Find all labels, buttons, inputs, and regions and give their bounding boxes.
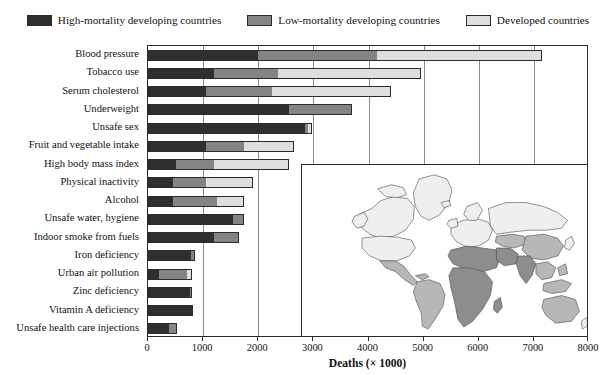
stacked-bar[interactable]: [148, 269, 192, 280]
bar-segment-developed[interactable]: [272, 86, 391, 97]
bar-segment-high[interactable]: [148, 250, 191, 261]
bar-segment-low[interactable]: [258, 50, 377, 61]
bar-segment-high[interactable]: [148, 323, 169, 334]
region-russia: [488, 203, 567, 235]
bar-segment-high[interactable]: [148, 104, 289, 115]
bar-row[interactable]: [148, 46, 588, 64]
bar-segment-low[interactable]: [206, 86, 272, 97]
bar-segment-developed[interactable]: [308, 123, 311, 134]
legend-swatch-low-mortality-icon: [247, 15, 272, 26]
bar-segment-low[interactable]: [173, 177, 206, 188]
bar-row[interactable]: [148, 137, 588, 155]
region-southeast-asia: [536, 262, 556, 280]
x-tick-0: [147, 337, 148, 341]
stacked-bar-chart: Blood pressureTobacco useSerum cholester…: [0, 40, 616, 375]
region-philippines: [558, 264, 568, 276]
stacked-bar[interactable]: [148, 323, 177, 334]
bar-segment-high[interactable]: [148, 305, 192, 316]
category-label-11: Iron deficiency: [75, 246, 139, 264]
region-south-america: [413, 280, 445, 329]
x-tick-label-1000: 1000: [192, 342, 213, 353]
category-label-1: Tobacco use: [87, 63, 140, 81]
region-scandinavia: [464, 203, 483, 221]
x-axis-title: Deaths (× 1000): [147, 357, 588, 370]
stacked-bar[interactable]: [148, 287, 192, 298]
stacked-bar[interactable]: [148, 104, 352, 115]
bar-row[interactable]: [148, 101, 588, 119]
bar-segment-developed[interactable]: [217, 196, 245, 207]
world-map-svg: [302, 165, 587, 336]
bar-segment-low[interactable]: [173, 196, 217, 207]
bar-segment-developed[interactable]: [244, 141, 294, 152]
stacked-bar[interactable]: [148, 123, 312, 134]
bar-segment-developed[interactable]: [214, 159, 288, 170]
stacked-bar[interactable]: [148, 86, 391, 97]
bar-segment-low[interactable]: [192, 305, 193, 316]
region-madagascar: [493, 297, 502, 313]
stacked-bar[interactable]: [148, 305, 193, 316]
bar-segment-low[interactable]: [190, 287, 192, 298]
category-label-13: Zinc deficiency: [73, 282, 139, 300]
bar-row[interactable]: [148, 119, 588, 137]
stacked-bar[interactable]: [148, 50, 542, 61]
bar-segment-high[interactable]: [148, 196, 173, 207]
stacked-bar[interactable]: [148, 250, 195, 261]
category-label-9: Unsafe water, hygiene: [44, 209, 139, 227]
bar-segment-high[interactable]: [148, 141, 206, 152]
bar-segment-high[interactable]: [148, 50, 258, 61]
bar-segment-high[interactable]: [148, 232, 214, 243]
region-australia: [542, 295, 580, 323]
bar-segment-developed[interactable]: [187, 269, 193, 280]
bar-segment-high[interactable]: [148, 177, 173, 188]
bar-segment-low[interactable]: [214, 232, 239, 243]
region-mexico-central-america: [380, 261, 418, 286]
category-label-7: Physical inactivity: [60, 173, 139, 191]
region-british-isles: [447, 218, 458, 228]
x-tick-label-0: 0: [144, 342, 149, 353]
x-tick-6000: [478, 337, 479, 341]
stacked-bar[interactable]: [148, 177, 253, 188]
bar-segment-low[interactable]: [214, 68, 277, 79]
x-tick-label-7000: 7000: [522, 342, 543, 353]
stacked-bar[interactable]: [148, 141, 294, 152]
legend-item-developed: Developed countries: [466, 15, 589, 26]
bar-segment-high[interactable]: [148, 159, 176, 170]
stacked-bar[interactable]: [148, 232, 239, 243]
bar-segment-high[interactable]: [148, 269, 159, 280]
category-label-2: Serum cholesterol: [62, 82, 139, 100]
bar-segment-low[interactable]: [289, 104, 352, 115]
bar-row[interactable]: [148, 64, 588, 82]
stacked-bar[interactable]: [148, 159, 289, 170]
bar-segment-developed[interactable]: [278, 68, 421, 79]
region-arctic-islands: [378, 185, 407, 198]
chart-legend: High-mortality developing countries Low-…: [0, 8, 616, 34]
region-greenland: [413, 175, 452, 220]
bar-segment-high[interactable]: [148, 86, 206, 97]
bar-segment-low[interactable]: [206, 141, 245, 152]
bar-segment-high[interactable]: [148, 214, 233, 225]
region-japan: [565, 236, 575, 250]
bar-segment-high[interactable]: [148, 123, 305, 134]
plot-area: [147, 45, 588, 337]
bar-segment-low[interactable]: [233, 214, 244, 225]
category-label-15: Unsafe health care injections: [16, 319, 139, 337]
bar-segment-high[interactable]: [148, 287, 190, 298]
x-tick-label-2000: 2000: [247, 342, 268, 353]
bar-segment-developed[interactable]: [377, 50, 542, 61]
stacked-bar[interactable]: [148, 214, 244, 225]
bar-segment-low[interactable]: [191, 250, 195, 261]
stacked-bar[interactable]: [148, 68, 421, 79]
x-tick-label-3000: 3000: [302, 342, 323, 353]
x-tick-1000: [202, 337, 203, 341]
bar-row[interactable]: [148, 83, 588, 101]
bar-segment-low[interactable]: [169, 323, 177, 334]
bar-segment-developed[interactable]: [206, 177, 253, 188]
category-label-5: Fruit and vegetable intake: [29, 136, 139, 154]
bar-segment-low[interactable]: [159, 269, 187, 280]
region-caribbean: [415, 274, 429, 280]
bar-segment-high[interactable]: [148, 68, 214, 79]
region-united-states: [362, 236, 415, 261]
legend-label-developed: Developed countries: [497, 15, 589, 26]
bar-segment-low[interactable]: [176, 159, 215, 170]
stacked-bar[interactable]: [148, 196, 244, 207]
